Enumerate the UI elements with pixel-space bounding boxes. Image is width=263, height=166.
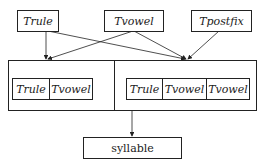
right-cell-trule: Trule	[127, 79, 162, 99]
left-cell-tvowel: Tvowel	[49, 79, 92, 99]
node-trule-label: Trule	[23, 15, 53, 28]
node-syllable-label: syllable	[111, 142, 154, 155]
edge-tvowel-right	[134, 31, 186, 59]
node-tvowel: Tvowel	[104, 10, 164, 32]
edge-tvowel-left	[48, 31, 133, 59]
left-cell-trule: Trule	[13, 79, 49, 99]
left-group: Trule Tvowel	[12, 78, 93, 100]
edge-trule-right	[48, 31, 185, 59]
right-cell-tvowel-1: Tvowel	[162, 79, 206, 99]
node-trule: Trule	[17, 10, 59, 32]
node-tpostfix: Tpostfix	[191, 10, 252, 32]
node-syllable: syllable	[83, 137, 182, 159]
node-tpostfix-label: Tpostfix	[199, 15, 244, 28]
right-cell-tvowel-2: Tvowel	[206, 79, 249, 99]
right-group: Trule Tvowel Tvowel	[126, 78, 250, 100]
edge-tpostfix-right	[188, 31, 219, 59]
container-divider	[114, 60, 115, 111]
node-tvowel-label: Tvowel	[114, 15, 154, 28]
